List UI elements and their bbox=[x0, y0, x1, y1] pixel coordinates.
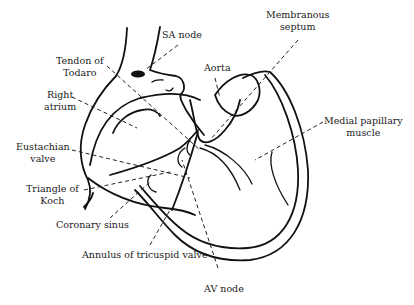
leader-triangle bbox=[84, 172, 170, 190]
leader-sa-node bbox=[145, 45, 178, 70]
label-av-node: AV node bbox=[204, 283, 244, 295]
label-sa-node: SA node bbox=[162, 29, 202, 41]
label-triangle-of-koch: Triangle of Koch bbox=[26, 183, 79, 207]
crista-curl bbox=[152, 80, 173, 91]
label-membranous-septum: Membranous septum bbox=[266, 9, 329, 33]
label-tendon-line1: Tendon of bbox=[56, 55, 104, 67]
label-coronary-sinus: Coronary sinus bbox=[56, 219, 129, 231]
label-eustachian-line2: valve bbox=[16, 153, 70, 165]
label-tendon-of-todaro: Tendon of Todaro bbox=[56, 55, 104, 79]
atrium-inner-arc bbox=[113, 109, 160, 133]
label-aorta: Aorta bbox=[204, 62, 231, 74]
label-eustachian-valve: Eustachian valve bbox=[16, 141, 70, 165]
label-right-atrium: Right atrium bbox=[44, 89, 76, 113]
label-membranous-line1: Membranous bbox=[266, 9, 329, 21]
label-membranous-line2: septum bbox=[266, 21, 329, 33]
label-eustachian-line1: Eustachian bbox=[16, 141, 70, 153]
label-triangle-line2: Koch bbox=[26, 195, 79, 207]
label-annulus-tricuspid: Annulus of tricuspid valve bbox=[82, 249, 208, 261]
label-medial-papillary-line1: Medial papillary bbox=[324, 115, 403, 127]
label-right-atrium-line2: atrium bbox=[44, 101, 76, 113]
label-medial-papillary-muscle: Medial papillary muscle bbox=[324, 115, 403, 139]
svc-right-wall bbox=[150, 27, 204, 135]
label-medial-papillary-line2: muscle bbox=[324, 127, 403, 139]
papillary-line bbox=[271, 152, 288, 205]
label-right-atrium-line1: Right bbox=[44, 89, 76, 101]
leader-medial-papillary bbox=[255, 122, 323, 160]
label-triangle-line1: Triangle of bbox=[26, 183, 79, 195]
chordae-1 bbox=[200, 148, 240, 190]
chordae-2 bbox=[205, 145, 252, 184]
sa-node-shape bbox=[131, 70, 145, 77]
label-tendon-line2: Todaro bbox=[56, 67, 104, 79]
